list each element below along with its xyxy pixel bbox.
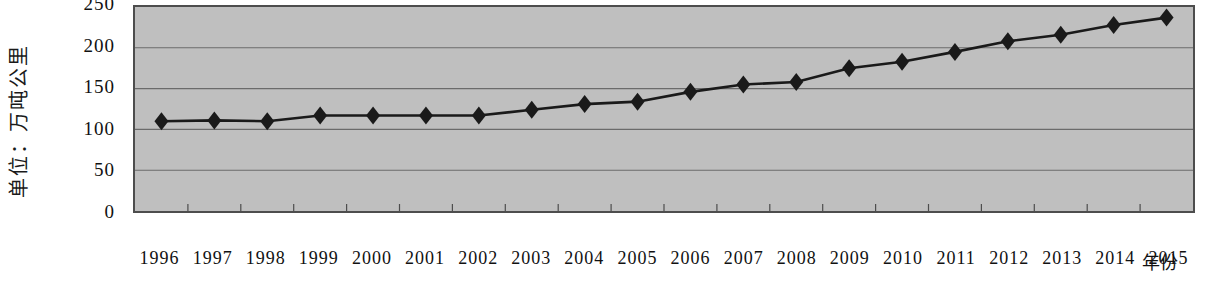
data-line	[161, 18, 1166, 122]
data-point-marker	[578, 95, 592, 113]
x-tick-label: 2000	[352, 248, 392, 269]
x-axis-title: 年份	[1142, 248, 1178, 274]
data-point-marker	[260, 112, 274, 130]
x-tick-label: 1997	[193, 248, 233, 269]
x-tick-label: 2003	[511, 248, 551, 269]
x-tick-label: 2002	[458, 248, 498, 269]
data-point-marker	[895, 53, 909, 71]
data-point-markers	[154, 9, 1173, 131]
data-point-marker	[154, 112, 168, 130]
data-point-marker	[948, 43, 962, 61]
y-tick-label: 200	[57, 35, 115, 57]
x-tick-label: 2005	[617, 248, 657, 269]
x-tick-label: 2010	[883, 248, 923, 269]
x-tick-label: 2004	[564, 248, 604, 269]
x-tick-label: 2008	[777, 248, 817, 269]
x-tick-label: 2006	[671, 248, 711, 269]
chart-figure: 单位：万吨公里 050100150200250 1996199719981999…	[0, 0, 1207, 281]
y-axis-tick-labels: 050100150200250	[55, 0, 115, 240]
x-tick-label: 2012	[989, 248, 1029, 269]
x-tick-label: 2014	[1095, 248, 1135, 269]
data-point-marker	[1054, 26, 1068, 44]
line-chart-svg	[135, 7, 1193, 211]
data-point-marker	[631, 93, 645, 111]
y-tick-label: 150	[57, 76, 115, 98]
x-tick-label: 1999	[299, 248, 339, 269]
gridlines	[135, 48, 1193, 170]
data-point-marker	[472, 107, 486, 125]
x-axis-tick-labels: 1996199719981999200020012002200320042005…	[133, 248, 1195, 276]
x-axis-ticks	[188, 204, 1140, 211]
x-tick-label: 1996	[140, 248, 180, 269]
x-tick-label: 1998	[246, 248, 286, 269]
y-axis-title: 单位：万吨公里	[0, 0, 34, 240]
data-point-marker	[207, 111, 221, 129]
data-point-marker	[1160, 9, 1174, 27]
data-point-marker	[1107, 16, 1121, 34]
x-tick-label: 2009	[830, 248, 870, 269]
y-tick-label: 0	[57, 201, 115, 223]
plot-area	[133, 5, 1195, 213]
data-point-marker	[313, 107, 327, 125]
data-point-marker	[683, 83, 697, 101]
data-point-marker	[736, 76, 750, 94]
data-point-marker	[419, 107, 433, 125]
y-tick-label: 50	[57, 159, 115, 181]
x-tick-label: 2001	[405, 248, 445, 269]
x-tick-label: 2011	[936, 248, 975, 269]
data-point-marker	[366, 107, 380, 125]
y-tick-label: 250	[57, 0, 115, 15]
data-point-marker	[842, 59, 856, 77]
y-tick-label: 100	[57, 118, 115, 140]
data-point-marker	[525, 101, 539, 119]
y-axis-title-text: 单位：万吨公里	[3, 43, 32, 197]
x-tick-label: 2013	[1042, 248, 1082, 269]
x-tick-label: 2007	[724, 248, 764, 269]
